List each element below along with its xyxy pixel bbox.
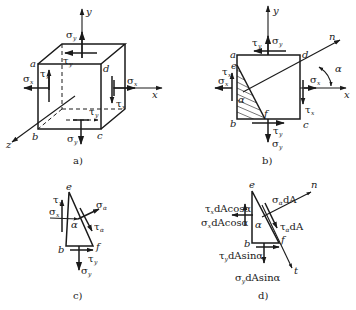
sigma-x-right-label: σ <box>127 75 134 86</box>
vertex-d: d <box>302 49 308 60</box>
t-axis-label: t <box>294 265 299 276</box>
vertex-f: f <box>280 234 287 245</box>
sigma-y-label: σ <box>81 265 88 276</box>
vertex-c: c <box>303 119 309 130</box>
svg-text:x: x <box>56 211 60 218</box>
vertex-a: a <box>30 58 36 69</box>
inclined-section-ef <box>237 65 265 119</box>
svg-text:y: y <box>87 270 92 278</box>
svg-text:y: y <box>94 111 99 119</box>
vertex-b: b <box>244 238 250 249</box>
sigma-y-force-label: σydAsinα <box>235 272 281 285</box>
svg-text:y: y <box>278 143 283 151</box>
cube-right-face <box>101 44 125 129</box>
svg-text:x: x <box>311 109 315 116</box>
vertex-b: b <box>230 118 236 129</box>
sigma-y-top-label: σ <box>272 35 279 46</box>
vertex-b: b <box>58 244 64 255</box>
vertex-c: c <box>97 130 103 141</box>
svg-text:y: y <box>72 34 77 42</box>
z-axis <box>12 96 75 142</box>
svg-text:y: y <box>93 258 98 266</box>
sigma-y-bottom-label: σ <box>272 138 279 149</box>
sigma-alpha-label: σ <box>96 199 103 210</box>
angle-label: α <box>71 219 78 230</box>
vertex-e: e <box>66 181 72 192</box>
svg-text:x: x <box>317 79 321 86</box>
stress-element-diagram: y σ y τ y x z a d b c σ x τ x σ x τ x <box>0 0 356 310</box>
tau-y-force-label: τydAsinα <box>219 250 263 263</box>
panel-d: e b f t n τxdAcosα σxdAcosα α σαdA ταdA … <box>201 179 317 301</box>
svg-text:y: y <box>278 40 283 48</box>
caption-b: b) <box>262 155 272 166</box>
svg-text:y: y <box>68 60 73 68</box>
tau-x-force-label: τxdAcosα <box>205 203 251 215</box>
vertex-e: e <box>231 60 237 71</box>
svg-text:α: α <box>100 226 104 233</box>
angle-label: α <box>255 219 262 230</box>
vertex-f: f <box>95 241 102 252</box>
angle-arc <box>319 67 331 86</box>
panel-b: y σ y τ y x n α α a d b c e f σ x τ x <box>215 5 350 166</box>
sigma-y-bottom-label: σ <box>67 133 74 144</box>
tau-alpha-force-label: ταdA <box>280 221 304 233</box>
sigma-alpha-force-label: σαdA <box>272 194 297 206</box>
caption-d: d) <box>258 290 268 301</box>
n-axis-label: n <box>329 31 335 42</box>
panel-c: e b f τ x σ x σ α τ α α τ y σ y c) <box>49 181 107 301</box>
svg-text:x: x <box>225 80 229 87</box>
vertex-f: f <box>263 108 270 119</box>
svg-text:α: α <box>103 204 107 211</box>
svg-text:x: x <box>134 80 138 87</box>
svg-text:y: y <box>257 42 262 50</box>
hidden-edge <box>38 109 62 129</box>
sigma-x-left-label: σ <box>23 73 30 84</box>
svg-text:y: y <box>278 130 283 138</box>
x-axis-label: x <box>152 89 158 100</box>
vertex-d: d <box>103 63 109 74</box>
vertex-b: b <box>32 131 38 142</box>
y-axis-label: y <box>272 5 279 16</box>
sigma-x-right-label: σ <box>310 74 317 85</box>
sigma-x-label: σ <box>49 206 56 217</box>
sigma-x-force-label: σxdAcosα <box>201 217 249 229</box>
caption-c: c) <box>73 290 83 301</box>
svg-text:x: x <box>30 78 34 85</box>
vertex-e: e <box>249 179 255 190</box>
panel-a: y σ y τ y x z a d b c σ x τ x σ x τ x <box>5 6 162 166</box>
y-axis-label: y <box>85 6 92 17</box>
vertex-a: a <box>230 49 236 60</box>
svg-text:y: y <box>73 138 78 146</box>
caption-a: a) <box>73 155 83 166</box>
n-axis-label: n <box>311 179 317 190</box>
sigma-y-top-label: σ <box>66 29 73 40</box>
x-axis-label: x <box>344 89 350 100</box>
z-axis-label: z <box>5 139 12 150</box>
angle-label: α <box>335 63 342 74</box>
angle-label-inner: α <box>238 94 245 105</box>
